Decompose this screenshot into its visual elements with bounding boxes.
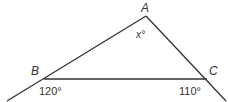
angle-label-120: 120° <box>39 85 62 97</box>
line-ab-extended <box>7 16 146 101</box>
vertex-label-a: A <box>140 1 149 15</box>
vertex-label-c: C <box>209 64 218 78</box>
triangle-diagram: A B C x° 120° 110° <box>0 0 228 102</box>
angle-label-110: 110° <box>179 85 201 97</box>
vertex-label-b: B <box>31 64 39 78</box>
angle-label-x: x° <box>135 29 145 40</box>
